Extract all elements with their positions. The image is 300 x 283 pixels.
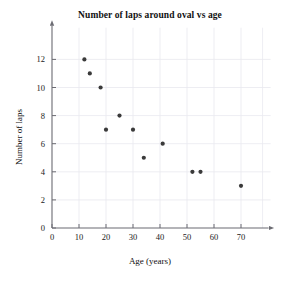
x-tick-label: 60	[210, 232, 219, 242]
data-point	[88, 71, 92, 75]
x-tick-label: 50	[183, 232, 192, 242]
x-tick-labels: 010203040506070	[50, 232, 245, 242]
data-points	[82, 57, 243, 188]
data-point	[99, 85, 103, 89]
plot-area: 010203040506070 024681012	[0, 0, 300, 283]
x-tick-label: 30	[129, 232, 138, 242]
y-tick-labels: 024681012	[37, 54, 46, 233]
data-point	[104, 128, 108, 132]
horizontal-gridlines	[52, 59, 271, 200]
y-tick-label: 0	[41, 223, 45, 233]
scatter-chart: Number of laps around oval vs age 010203…	[0, 0, 300, 283]
data-point	[239, 184, 243, 188]
data-point	[142, 156, 146, 160]
x-tick-label: 70	[237, 232, 246, 242]
y-tick-label: 10	[37, 83, 46, 93]
x-tick-label: 0	[50, 232, 54, 242]
data-point	[117, 114, 121, 118]
x-tick-label: 20	[102, 232, 111, 242]
data-point	[190, 170, 194, 174]
data-point	[161, 142, 165, 146]
data-point	[82, 57, 86, 61]
y-tick-label: 12	[37, 54, 46, 64]
data-point	[131, 128, 135, 132]
y-tick-label: 2	[41, 195, 45, 205]
x-tick-label: 10	[75, 232, 84, 242]
data-point	[198, 170, 202, 174]
y-tick-label: 8	[41, 111, 45, 121]
y-tick-label: 4	[41, 167, 46, 177]
x-tick-label: 40	[156, 232, 165, 242]
y-tick-label: 6	[41, 139, 45, 149]
